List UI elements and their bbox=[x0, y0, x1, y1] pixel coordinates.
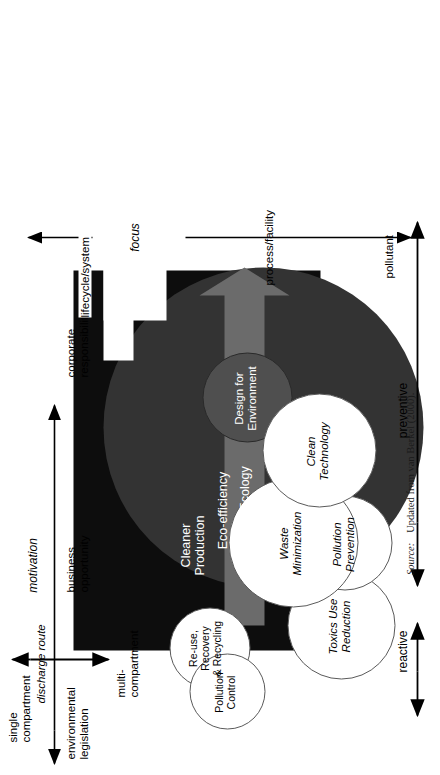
figure-canvas: CleanerProduction Eco-efficiency Design … bbox=[0, 0, 440, 775]
axis-label-reactive: reactive bbox=[396, 613, 409, 689]
source-text: Updated from van Berkel (2000). bbox=[405, 393, 416, 533]
axis-label-pollutant: pollutant bbox=[382, 198, 395, 278]
axis-label-business-opportunity: businessopportunity bbox=[64, 492, 90, 592]
axis-label-environmental-legislation: environmentallegislation bbox=[64, 649, 90, 759]
axis-label-discharge-route: discharge route bbox=[34, 603, 47, 703]
axis-label-process-facility: process/facility bbox=[262, 175, 275, 285]
axis-label-multi-compartment: multi-compartment bbox=[114, 597, 140, 697]
axis-label-single-compartment: singlecompartment bbox=[6, 642, 32, 742]
axis-label-focus: focus bbox=[128, 197, 141, 277]
source-label: Source: bbox=[405, 543, 416, 575]
source-caption: Source: Updated from van Berkel (2000). bbox=[404, 375, 424, 575]
axis-label-motivation: motivation bbox=[26, 520, 39, 610]
axis-label-lifecycle-system: lifecycle/system bbox=[78, 197, 91, 317]
diagram-stage: CleanerProduction Eco-efficiency Design … bbox=[0, 0, 440, 775]
